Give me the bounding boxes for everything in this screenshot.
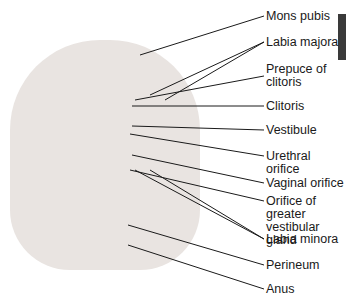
diagram-label: Mons pubis [266,10,330,23]
diagram-label: Prepuce of clitoris [266,63,326,89]
diagram-label: Anus [266,283,295,296]
diagram-label: Vaginal orifice [266,177,344,190]
diagram-label: Labia minora [266,233,338,246]
diagram-label: Labia majora [266,36,338,49]
anatomy-diagram: Mons pubisLabia majoraPrepuce of clitori… [0,0,346,296]
diagram-label: Urethral orifice [266,150,346,176]
diagram-label: Clitoris [266,100,304,113]
diagram-label: Vestibule [266,124,317,137]
diagram-label: Perineum [266,259,320,272]
